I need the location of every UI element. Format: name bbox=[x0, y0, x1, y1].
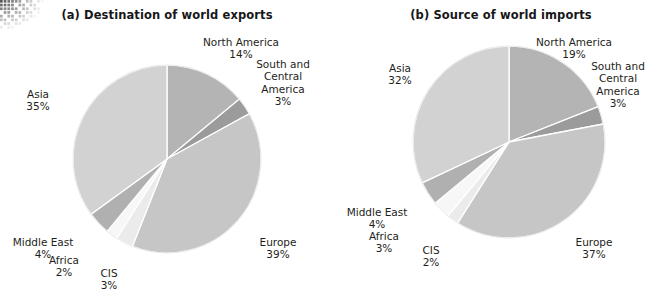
slice-label-south-and-central-america: South and Central America 3% bbox=[572, 60, 664, 110]
slice-label-asia: Asia 35% bbox=[12, 88, 64, 113]
slice-label-asia: Asia 32% bbox=[374, 62, 426, 87]
slice-label-middle-east: Middle East 4% bbox=[2, 236, 84, 261]
chart-panel-exports: (a) Destination of world exports North A… bbox=[0, 0, 334, 300]
slice-label-south-and-central-america: South and Central America 3% bbox=[237, 58, 329, 108]
slice-label-europe: Europe 39% bbox=[240, 236, 316, 261]
slice-label-cis: CIS 2% bbox=[408, 244, 454, 269]
slice-label-africa: Africa 3% bbox=[356, 230, 412, 255]
slice-label-middle-east: Middle East 4% bbox=[334, 206, 420, 231]
slice-label-europe: Europe 37% bbox=[556, 236, 632, 261]
slice-label-cis: CIS 3% bbox=[86, 267, 132, 292]
slice-label-north-america: North America 19% bbox=[518, 36, 630, 61]
chart-panel-imports: (b) Source of world imports North Americ… bbox=[334, 0, 668, 300]
